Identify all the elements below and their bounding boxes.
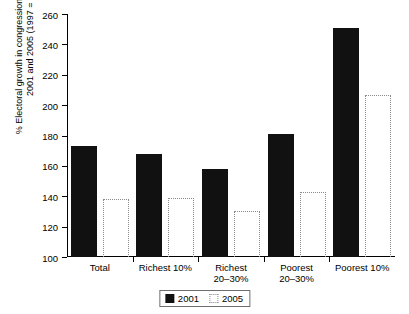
legend-label-2001: 2001	[178, 293, 199, 304]
bar-2005	[300, 192, 326, 257]
bar-2005	[234, 211, 260, 257]
plot-area: 100120140160180200220240260	[67, 14, 395, 257]
y-axis-tick-label: 100	[42, 252, 58, 263]
y-axis-tick: 120	[62, 227, 67, 228]
y-axis-title-line-2: 2001 and 2005 (1997 = 100)	[25, 0, 37, 134]
y-axis-tick-label: 160	[42, 161, 58, 172]
x-axis-category-label: Poorest 10%	[329, 262, 395, 273]
y-axis-tick: 180	[62, 136, 67, 137]
x-axis-category-label-line: 20–30%	[264, 273, 330, 284]
y-axis-line	[67, 14, 68, 257]
x-axis-category-label: Poorest20–30%	[264, 262, 330, 284]
x-axis-category-label: Total	[67, 262, 133, 273]
x-axis-category-label-line: Poorest 10%	[329, 262, 395, 273]
x-axis-category-label-line: 20–30%	[198, 273, 264, 284]
y-axis-tick-label: 140	[42, 191, 58, 202]
y-axis-tick-label: 240	[42, 39, 58, 50]
legend-item-2001: 2001	[165, 293, 199, 304]
filled-square-icon	[165, 294, 174, 303]
bar-2001	[136, 154, 162, 257]
x-axis-category-label-line: Poorest	[264, 262, 330, 273]
legend-item-2005: 2005	[209, 293, 243, 304]
bar-2005	[103, 199, 129, 257]
dotted-square-icon	[209, 294, 218, 303]
y-axis-tick-label: 180	[42, 131, 58, 142]
y-axis-tick: 100	[62, 257, 67, 258]
y-axis-tick: 160	[62, 166, 67, 167]
y-axis-tick: 220	[62, 75, 67, 76]
y-axis-tick-label: 200	[42, 100, 58, 111]
y-axis-title-line-1: % Electoral growth in congressional elec…	[14, 0, 26, 134]
y-axis-tick: 140	[62, 196, 67, 197]
bar-2005	[168, 198, 194, 257]
legend-label-2005: 2005	[222, 293, 243, 304]
x-axis-category-label-line: Richest 10%	[133, 262, 199, 273]
bar-2001	[71, 146, 97, 257]
y-axis-tick: 260	[62, 14, 67, 15]
x-axis-category-label-line: Total	[67, 262, 133, 273]
x-axis-category-label: Richest 10%	[133, 262, 199, 273]
bar-2001	[333, 28, 359, 257]
y-axis-title: % Electoral growth in congressional elec…	[8, 0, 42, 164]
y-axis-tick-label: 120	[42, 222, 58, 233]
x-axis-category-label-line: Richest	[198, 262, 264, 273]
bar-2001	[202, 169, 228, 257]
y-axis-tick: 240	[62, 44, 67, 45]
x-axis-category-label: Richest20–30%	[198, 262, 264, 284]
bar-2005	[365, 95, 391, 258]
y-axis-tick: 200	[62, 105, 67, 106]
bar-chart: % Electoral growth in congressional elec…	[0, 0, 409, 314]
y-axis-tick-label: 220	[42, 70, 58, 81]
y-axis-tick-label: 260	[42, 9, 58, 20]
legend: 2001 2005	[159, 290, 250, 307]
bar-2001	[268, 134, 294, 257]
